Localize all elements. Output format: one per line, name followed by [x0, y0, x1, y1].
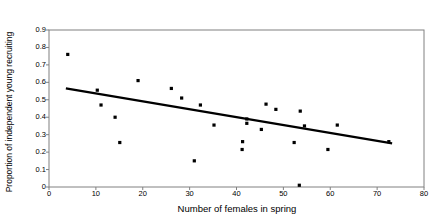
data-point	[336, 123, 339, 126]
x-tick-label: 20	[131, 190, 155, 198]
x-axis-label: Number of females in spring	[49, 203, 425, 214]
data-point	[118, 141, 121, 144]
data-point	[241, 148, 244, 151]
data-point	[99, 103, 102, 106]
data-point	[245, 122, 248, 125]
data-point	[241, 140, 244, 143]
scatter-chart-figure: Proportion of independent young recruiti…	[0, 0, 444, 224]
data-point	[199, 103, 202, 106]
data-point	[66, 53, 69, 56]
data-point	[298, 184, 301, 187]
data-point	[212, 123, 215, 126]
data-point	[260, 128, 263, 131]
x-tick-label: 50	[271, 190, 295, 198]
data-point	[136, 79, 139, 82]
x-tick-label: 40	[225, 190, 249, 198]
data-point	[193, 159, 196, 162]
x-tick-label: 60	[318, 190, 342, 198]
x-tick-label: 10	[84, 190, 108, 198]
data-point	[170, 87, 173, 90]
data-point	[274, 108, 277, 111]
x-tick-label: 80	[412, 190, 436, 198]
data-point	[326, 148, 329, 151]
plot-frame	[49, 30, 424, 187]
data-point	[264, 103, 267, 106]
x-tick-label: 0	[37, 190, 61, 198]
data-point	[180, 96, 183, 99]
x-axis-tick-labels: 01020304050607080	[0, 190, 444, 202]
x-tick-label: 30	[178, 190, 202, 198]
data-point	[96, 89, 99, 92]
x-tick-label: 70	[365, 190, 389, 198]
data-point	[293, 141, 296, 144]
data-point	[299, 110, 302, 113]
data-point	[303, 124, 306, 127]
data-point	[113, 116, 116, 119]
